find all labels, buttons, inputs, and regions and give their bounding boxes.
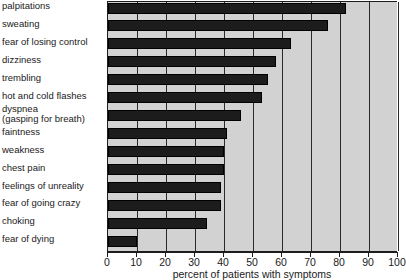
category-label: dizziness — [2, 55, 105, 65]
x-tick-label: 60 — [275, 256, 287, 268]
bar — [108, 110, 241, 121]
category-label: palpitations — [2, 1, 105, 11]
x-tick-label: 50 — [246, 256, 258, 268]
category-label-line1: trembling — [2, 72, 41, 83]
category-label-line1: feelings of unreality — [2, 180, 84, 191]
bar — [108, 20, 328, 31]
gridline-100 — [398, 2, 399, 251]
bar — [108, 74, 268, 85]
x-tick-label: 80 — [333, 256, 345, 268]
x-tick-label: 10 — [130, 256, 142, 268]
x-tick-label: 100 — [388, 256, 406, 268]
x-tick-label: 40 — [217, 256, 229, 268]
category-label-line1: fear of going crazy — [2, 197, 80, 208]
category-label-line1: faintness — [2, 126, 40, 137]
category-label: choking — [2, 216, 105, 226]
category-label-line1: dizziness — [2, 54, 41, 65]
bar — [108, 218, 207, 229]
category-label-line1: choking — [2, 215, 35, 226]
category-label: fear of losing control — [2, 37, 105, 47]
bars-layer — [108, 2, 397, 251]
bar — [108, 38, 291, 49]
x-tick-label: 70 — [304, 256, 316, 268]
category-label: hot and cold flashes — [2, 91, 105, 101]
category-label: fear of dying — [2, 234, 105, 244]
category-label-line2: (gasping for breath) — [2, 114, 105, 124]
category-label: trembling — [2, 73, 105, 83]
x-tick-label: 20 — [159, 256, 171, 268]
x-tick-label: 0 — [104, 256, 110, 268]
x-tick-label: 30 — [188, 256, 200, 268]
bar — [108, 200, 221, 211]
plot-area — [107, 1, 397, 252]
bar — [108, 92, 262, 103]
category-label-line1: weakness — [2, 144, 44, 155]
bar — [108, 182, 221, 193]
x-axis-title: percent of patients with symptoms — [107, 268, 397, 280]
bar — [108, 146, 224, 157]
category-label: sweating — [2, 19, 105, 29]
category-label: feelings of unreality — [2, 181, 105, 191]
category-label-line1: sweating — [2, 18, 40, 29]
bar — [108, 236, 137, 247]
bar — [108, 164, 224, 175]
bar — [108, 56, 276, 67]
category-label: chest pain — [2, 163, 105, 173]
bar — [108, 3, 346, 14]
bar — [108, 128, 227, 139]
category-label-line1: fear of dying — [2, 233, 54, 244]
x-tick-label: 90 — [362, 256, 374, 268]
category-label-line1: hot and cold flashes — [2, 90, 87, 101]
category-label: dyspnea(gasping for breath) — [2, 104, 105, 125]
category-label: weakness — [2, 145, 105, 155]
category-label: faintness — [2, 127, 105, 137]
category-label-column: palpitationssweatingfear of losing contr… — [0, 0, 105, 252]
category-label-line1: chest pain — [2, 162, 45, 173]
category-label-line1: fear of losing control — [2, 36, 88, 47]
category-label: fear of going crazy — [2, 198, 105, 208]
category-label-line1: palpitations — [2, 0, 50, 11]
